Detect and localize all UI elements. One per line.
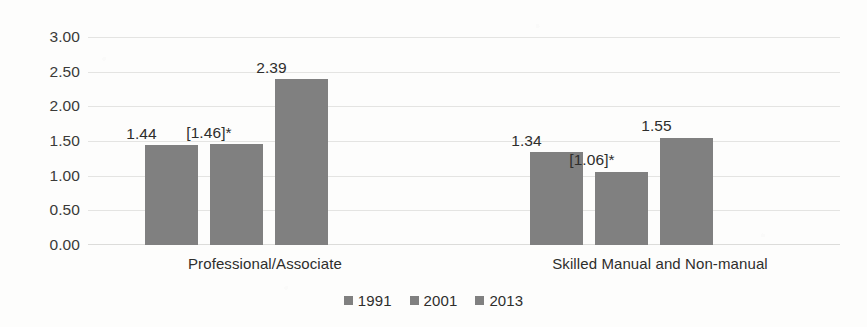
y-tick-label-2-00: 2.00 — [28, 97, 80, 115]
legend-label-2001: 2001 — [424, 292, 458, 309]
gridline-2-50 — [88, 72, 840, 73]
bar-professional-2001 — [210, 144, 263, 245]
bar-value-professional-2013: 2.39 — [245, 59, 298, 77]
bar-professional-2013 — [275, 79, 328, 245]
bar-value-professional-1991: 1.44 — [115, 125, 168, 143]
y-tick-label-0-00: 0.00 — [28, 236, 80, 254]
legend-label-1991: 1991 — [358, 292, 392, 309]
gridline-3-00 — [88, 37, 840, 38]
bar-value-professional-2001: [1.46]* — [175, 124, 243, 142]
y-tick-label-1-50: 1.50 — [28, 132, 80, 150]
legend-swatch-icon-2013 — [475, 296, 484, 305]
y-tick-label-3-00: 3.00 — [28, 28, 80, 46]
y-tick-label-0-50: 0.50 — [28, 201, 80, 219]
legend-label-2013: 2013 — [489, 292, 523, 309]
legend-swatch-icon-1991 — [344, 296, 353, 305]
bar-skilled-2001 — [595, 172, 648, 246]
legend-item-2013[interactable]: 2013 — [475, 292, 523, 309]
gridline-0-50 — [88, 210, 840, 211]
bar-value-skilled-2001: [1.06]* — [558, 151, 626, 169]
chart-legend: 1991 2001 2013 — [0, 292, 867, 309]
bar-value-skilled-2013: 1.55 — [630, 117, 683, 135]
gridline-2-00 — [88, 106, 840, 107]
y-tick-label-1-00: 1.00 — [28, 167, 80, 185]
bar-chart: 3.00 2.50 2.00 1.50 1.00 0.50 0.00 1.44 … — [0, 0, 867, 327]
legend-item-2001[interactable]: 2001 — [410, 292, 458, 309]
axis-baseline — [88, 244, 840, 245]
legend-swatch-icon-2001 — [410, 296, 419, 305]
category-label-professional: Professional/Associate — [145, 255, 385, 272]
gridline-1-00 — [88, 176, 840, 177]
legend-item-1991[interactable]: 1991 — [344, 292, 392, 309]
bar-value-skilled-1991: 1.34 — [500, 132, 553, 150]
bar-professional-1991 — [145, 145, 198, 245]
y-tick-label-2-50: 2.50 — [28, 63, 80, 81]
category-label-skilled: Skilled Manual and Non-manual — [510, 255, 810, 272]
bar-skilled-2013 — [660, 138, 713, 245]
